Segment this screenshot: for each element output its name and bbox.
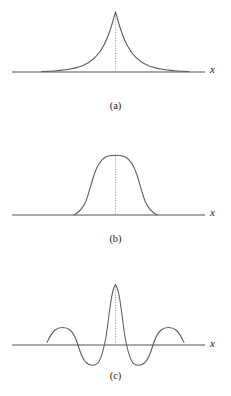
axis-label-x-a: x: [210, 64, 215, 75]
panel-caption-c: (c): [0, 371, 231, 382]
panel-a: x (a): [0, 0, 231, 132]
axis-label-x-b: x: [210, 207, 215, 218]
panel-b: x (b): [0, 132, 231, 264]
panel-caption-b: (b): [0, 234, 231, 245]
figure-container: x (a) x (b) x (c): [0, 0, 231, 396]
curve-c-sinc: [47, 285, 184, 366]
panel-caption-a: (a): [0, 101, 231, 112]
curve-a-cusp-peak: [42, 12, 189, 71]
panel-c: x (c): [0, 264, 231, 396]
plot-a: [0, 0, 231, 132]
axis-label-x-c: x: [210, 338, 215, 349]
